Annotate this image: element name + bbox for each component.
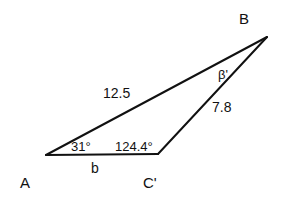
vertex-label-c-prime: C' xyxy=(143,174,157,191)
side-label-bc: 7.8 xyxy=(212,99,232,115)
side-bc xyxy=(158,37,267,154)
side-label-ac: b xyxy=(91,160,99,176)
vertex-label-a: A xyxy=(20,174,30,191)
angle-label-a: 31° xyxy=(71,139,91,154)
side-label-ab: 12.5 xyxy=(103,85,130,101)
side-ac xyxy=(46,154,158,155)
triangle-diagram: A B C' 12.5 7.8 b 31° 124.4° β' xyxy=(0,0,285,199)
vertex-label-b: B xyxy=(239,10,249,27)
angle-label-c: 124.4° xyxy=(115,139,153,154)
side-ab xyxy=(46,37,267,155)
angle-label-b: β' xyxy=(218,67,228,82)
